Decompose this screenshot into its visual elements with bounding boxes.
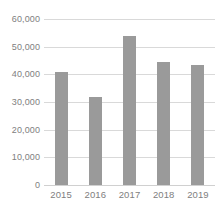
bar-slot-2017 (112, 19, 146, 185)
bar-2017 (123, 36, 136, 185)
y-axis-tick-label: 60,000 (0, 15, 40, 24)
bar-slot-2015 (44, 19, 78, 185)
y-axis-tick-label: 0 (0, 181, 40, 190)
bar-2015 (55, 72, 68, 185)
y-axis-tick-label: 30,000 (0, 98, 40, 107)
bar-slot-2019 (181, 19, 215, 185)
x-axis: 2015 2016 2017 2018 2019 (44, 189, 215, 201)
bar-2016 (89, 97, 102, 186)
y-axis-tick-label: 10,000 (0, 153, 40, 162)
plot-area (44, 19, 215, 185)
y-axis-tick-label: 20,000 (0, 126, 40, 135)
bar-2019 (191, 65, 204, 185)
y-axis-tick-label: 40,000 (0, 70, 40, 79)
bar-chart: 60,000 50,000 40,000 30,000 20,000 10,00… (0, 0, 222, 218)
y-axis-tick-label: 50,000 (0, 43, 40, 52)
x-axis-tick-label-2015: 2015 (44, 189, 78, 201)
bar-slot-2018 (147, 19, 181, 185)
x-axis-tick-label-2019: 2019 (181, 189, 215, 201)
x-axis-tick-label-2018: 2018 (147, 189, 181, 201)
bar-series (44, 19, 215, 185)
x-axis-tick-label-2016: 2016 (78, 189, 112, 201)
bar-slot-2016 (78, 19, 112, 185)
x-axis-line (44, 185, 215, 186)
bar-2018 (157, 62, 170, 185)
x-axis-tick-label-2017: 2017 (112, 189, 146, 201)
